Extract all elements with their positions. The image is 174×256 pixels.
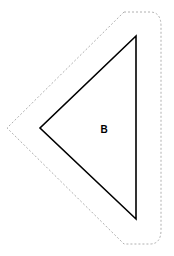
shape-label: B (100, 124, 107, 135)
selection-outline (7, 12, 161, 244)
triangle-shape[interactable] (40, 36, 136, 219)
diagram-canvas (0, 0, 174, 256)
